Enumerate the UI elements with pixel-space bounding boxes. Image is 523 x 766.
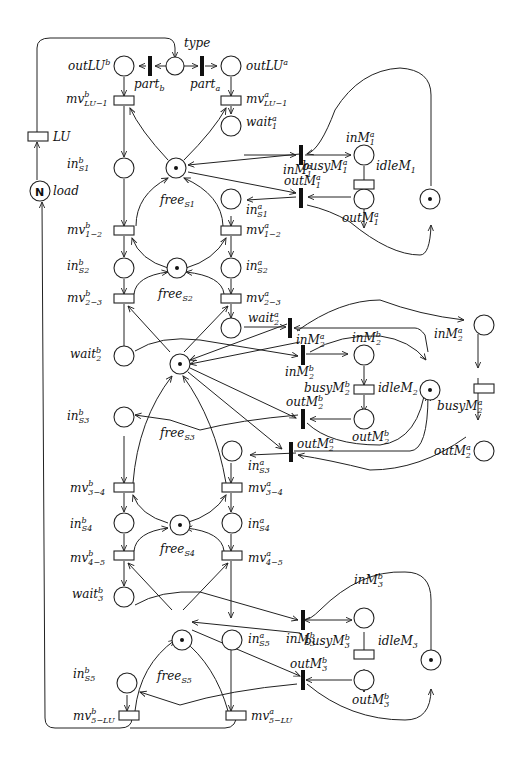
trans-part-b — [148, 56, 152, 76]
label-freeS1: freeS1 — [159, 193, 195, 209]
label-mv5LU-b: mvb5−LU — [73, 707, 115, 725]
label-outLU-b: outLUb — [68, 58, 110, 73]
place-inS2-a — [221, 258, 241, 278]
place-outM1-a — [354, 189, 374, 209]
place-wait1-a — [221, 116, 241, 136]
trans-inM2-a — [288, 318, 292, 338]
trans-busyM1-a — [354, 180, 374, 189]
label-freeS4: freeS4 — [159, 542, 195, 558]
place-outLU-a — [221, 56, 241, 76]
place-inM3-b — [354, 608, 374, 628]
label-idleM1: idleM1 — [376, 159, 416, 175]
label-mv45-b: mvb4−5 — [70, 549, 105, 567]
place-outM2-b — [354, 409, 374, 429]
label-inS3-b: inbS3 — [67, 408, 89, 425]
petri-net-diagram: N type outLUb outLUa partb p — [0, 0, 523, 766]
label-LU: LU — [52, 130, 71, 144]
label-part-b: partb — [134, 77, 165, 93]
place-inS2-b — [114, 258, 134, 278]
label-trans-inM2-a: inMa2 — [296, 332, 325, 349]
place-outM3-b — [354, 670, 374, 690]
label-place-outM2-a: outMa2 — [434, 443, 471, 460]
label-trans-outM2-a: outMa2 — [297, 436, 334, 453]
label-idleM3: idleM3 — [378, 634, 418, 650]
label-place-inM3-b: inMb3 — [354, 572, 383, 589]
label-freeS3: freeS3 — [159, 426, 195, 442]
label-place-outM2-b: outMb2 — [352, 429, 389, 446]
place-inS1-a — [221, 189, 241, 209]
trans-mv12-a — [221, 226, 241, 235]
trans-outM2-a — [289, 442, 293, 462]
label-mv34-b: mvb3−4 — [70, 479, 105, 497]
label-outLU-a: outLUa — [246, 58, 288, 73]
trans-outM2-b — [301, 409, 305, 429]
place-wait2-a — [221, 318, 241, 338]
label-mv45-a: mva4−5 — [248, 549, 283, 567]
label-busyM1-a: busyMa1 — [302, 158, 348, 175]
place-outM2-a — [474, 441, 494, 461]
trans-mv45-b — [114, 551, 134, 560]
place-inS3-a — [222, 441, 242, 461]
label-load: load — [53, 184, 79, 198]
label-wait2-b: waitb2 — [70, 346, 101, 363]
trans-busyM3-b — [354, 650, 374, 659]
trans-mv23-a — [221, 294, 241, 303]
labels: type outLUb outLUa partb parta LU load m… — [52, 36, 483, 725]
place-inM1-a — [354, 145, 374, 165]
label-freeS5: freeS5 — [156, 669, 192, 685]
trans-mv34-b — [114, 483, 134, 492]
label-busyM3-b: busyMb3 — [304, 633, 350, 650]
label-inS3-a: inaS3 — [248, 458, 270, 475]
trans-inM2-b — [301, 345, 305, 365]
trans-mv12-b — [114, 226, 134, 235]
label-mv12-a: mva1−2 — [246, 221, 281, 239]
label-inS5-a: inaS5 — [248, 631, 270, 648]
label-mvLU1-b: mvbLU−1 — [66, 90, 108, 108]
label-inS2-a: inaS2 — [246, 258, 268, 275]
trans-mv34-a — [222, 483, 242, 492]
label-place-outM3-b: outMb3 — [352, 692, 389, 709]
place-inS5-a — [222, 630, 242, 650]
label-mv5LU-a: mva5−LU — [251, 707, 293, 725]
trans-busyM2-a — [474, 384, 494, 393]
label-inS5-b: inbS5 — [73, 666, 95, 683]
label-inS1-b: inbS1 — [67, 156, 89, 173]
place-wait2-b — [114, 346, 134, 366]
label-freeS2: freeS2 — [157, 287, 193, 303]
place-inM2-a — [474, 315, 494, 335]
trans-mv45-a — [222, 551, 242, 560]
place-inS5-b — [117, 673, 137, 693]
trans-part-a — [200, 56, 204, 76]
trans-outM3-b — [301, 670, 305, 690]
trans-outM1-a — [299, 188, 303, 208]
label-mv23-a: mva2−3 — [246, 289, 281, 307]
label-inS2-b: inbS2 — [67, 258, 89, 275]
place-wait3-b — [114, 587, 134, 607]
label-busyM2-a: busyMa2 — [437, 398, 483, 415]
place-outLU-b — [114, 56, 134, 76]
label-mvLU1-a: mvaLU−1 — [246, 90, 287, 108]
place-inS4-b — [114, 513, 134, 533]
trans-mv5LU-b — [119, 711, 139, 720]
label-wait2-a: waita2 — [248, 310, 279, 327]
trans-inM3-b — [301, 610, 305, 630]
label-mv23-b: mvb2−3 — [67, 289, 102, 307]
place-inS4-a — [222, 513, 242, 533]
label-trans-inM2-b: inMb2 — [285, 364, 314, 381]
label-place-inM2-a: inMa2 — [434, 326, 463, 343]
label-inS4-a: inaS4 — [248, 516, 270, 533]
trans-LU — [28, 132, 48, 141]
trans-mv5LU-a — [226, 711, 246, 720]
place-type — [166, 57, 184, 75]
label-place-outM1-a: outMa1 — [342, 210, 379, 227]
trans-mv23-b — [114, 294, 134, 303]
label-place-inM1-a: inMa1 — [346, 130, 375, 147]
label-trans-outM1-a: outMa1 — [284, 173, 321, 190]
load-marking: N — [35, 186, 44, 199]
label-wait3-b: waitb3 — [72, 586, 103, 603]
trans-mvLU1-b — [114, 96, 134, 105]
label-mv12-b: mvb1−2 — [67, 221, 102, 239]
place-inS3-b — [114, 407, 134, 427]
label-trans-outM3-b: outMb3 — [290, 656, 327, 673]
label-idleM2: idleM2 — [378, 381, 418, 397]
